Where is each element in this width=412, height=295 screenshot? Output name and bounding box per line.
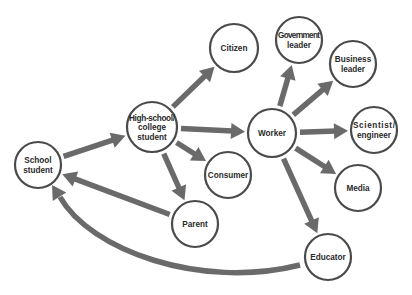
node-label: School xyxy=(24,156,51,165)
arrow-shaft xyxy=(300,131,336,132)
node-label: High-school/ xyxy=(129,114,176,123)
node-hs-college-student: High-school/collegestudent xyxy=(127,102,177,152)
arrow-head-icon xyxy=(280,65,295,81)
node-educator: Educator xyxy=(305,234,351,280)
arrow-shaft xyxy=(177,142,196,154)
flow-diagram: SchoolstudentHigh-school/collegestudentC… xyxy=(0,0,412,295)
edge-hs_college_student-to-consumer xyxy=(177,142,206,161)
node-label: Worker xyxy=(258,129,287,138)
edge-worker-to-government_leader xyxy=(280,65,296,106)
node-label: Government xyxy=(278,31,320,40)
arrow-shaft xyxy=(164,154,180,190)
node-label: college xyxy=(138,123,167,132)
edge-worker-to-educator xyxy=(284,159,319,234)
nodes-layer: SchoolstudentHigh-school/collegestudentC… xyxy=(15,17,397,280)
node-business-leader: Businessleader xyxy=(330,41,376,87)
edge-school_student-to-hs_college_student xyxy=(64,133,126,157)
edge-worker-to-scientist_engineer xyxy=(300,123,348,139)
node-label: Citizen xyxy=(221,44,248,53)
arrow-head-icon xyxy=(231,123,245,139)
node-label: Educator xyxy=(310,253,346,262)
arrow-shaft xyxy=(64,140,114,157)
node-label: engineer xyxy=(357,131,392,140)
arrow-shaft xyxy=(74,178,170,214)
node-scientist-engineer: Scientist/engineer xyxy=(351,107,397,153)
arrow-shaft xyxy=(173,75,206,107)
node-label: Media xyxy=(346,184,370,193)
arrow-head-icon xyxy=(334,123,348,139)
node-citizen: Citizen xyxy=(210,24,258,72)
arrow-shaft xyxy=(293,89,324,115)
node-label: student xyxy=(137,133,167,142)
node-label: Scientist/ xyxy=(353,121,396,130)
edge-parent-to-school_student xyxy=(62,172,169,215)
node-government-leader: Governmentleader xyxy=(276,17,322,63)
node-consumer: Consumer xyxy=(205,152,251,198)
edge-hs_college_student-to-worker xyxy=(181,123,245,139)
node-label: student xyxy=(23,166,53,175)
edge-hs_college_student-to-parent xyxy=(164,154,186,201)
arrow-shaft xyxy=(296,148,326,167)
node-label: leader xyxy=(341,65,366,74)
node-worker: Worker xyxy=(248,109,296,157)
arrow-shaft xyxy=(284,159,313,223)
arrow-shaft xyxy=(181,128,233,131)
node-label: Consumer xyxy=(208,171,249,180)
edge-worker-to-business_leader xyxy=(293,81,333,115)
node-label: Business xyxy=(335,55,372,64)
edge-worker-to-media xyxy=(296,148,337,174)
node-media: Media xyxy=(335,165,381,211)
node-label: Parent xyxy=(182,220,208,229)
node-parent: Parent xyxy=(172,201,218,247)
node-label: leader xyxy=(287,41,312,50)
node-school-student: Schoolstudent xyxy=(15,142,61,188)
edge-hs_college_student-to-citizen xyxy=(173,67,215,107)
arrow-shaft xyxy=(280,76,289,106)
